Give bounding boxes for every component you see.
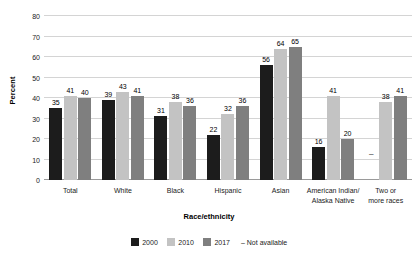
- bar: [379, 102, 392, 180]
- bar-slot: 36: [236, 16, 249, 180]
- legend-item: 2017: [203, 238, 230, 246]
- bar-value-label: 32: [224, 104, 232, 113]
- bar-group: 223236: [202, 16, 255, 180]
- legend-item-label: 2010: [178, 239, 194, 246]
- bar-group: 354140: [44, 16, 97, 180]
- bar: [183, 106, 196, 180]
- bar: [327, 96, 340, 180]
- bar-slot: 41: [64, 16, 77, 180]
- bar-slot: 41: [131, 16, 144, 180]
- bar-value-label: 35: [52, 98, 60, 107]
- bar-slot: –: [365, 16, 378, 180]
- x-axis-tick-label-line: American Indian/: [307, 186, 360, 196]
- x-axis-tick-label: Two ormore races: [359, 186, 412, 205]
- bar-group: 566465: [254, 16, 307, 180]
- x-axis-tick-label: White: [97, 186, 150, 196]
- bar-chart-figure: Percent 01020304050607080 35414039434131…: [0, 0, 418, 262]
- bar-slot: 56: [260, 16, 273, 180]
- bar-value-label: 36: [186, 96, 194, 105]
- bar-value-label: 36: [239, 96, 247, 105]
- bar: [274, 49, 287, 180]
- x-axis-tick-label-line: more races: [359, 196, 412, 206]
- bar: [394, 96, 407, 180]
- bar-slot: 65: [289, 16, 302, 180]
- y-axis-title: Percent: [8, 61, 17, 121]
- legend-item: 2000: [131, 238, 158, 246]
- bar: [154, 116, 167, 180]
- x-axis-tick-label-line: Black: [149, 186, 202, 196]
- bar-slot: 39: [102, 16, 115, 180]
- legend-color-swatch: [167, 238, 175, 246]
- y-axis-tick-label: 10: [32, 156, 40, 163]
- legend-item-label: 2000: [142, 239, 158, 246]
- bar: [116, 92, 129, 180]
- bar-value-label: 41: [396, 86, 404, 95]
- bar-slot: 64: [274, 16, 287, 180]
- bar-slot: 36: [183, 16, 196, 180]
- legend-not-available-note: – Not available: [241, 239, 287, 246]
- bar: [260, 65, 273, 180]
- bar-slot: 20: [341, 16, 354, 180]
- y-axis-tick-label: 30: [32, 115, 40, 122]
- x-axis-tick-label-line: Total: [44, 186, 97, 196]
- bar-value-label: 43: [119, 82, 127, 91]
- x-axis-tick-label: American Indian/Alaska Native: [307, 186, 360, 205]
- bar-slot: 38: [169, 16, 182, 180]
- legend: 200020102017– Not available: [0, 238, 418, 246]
- bar: [221, 114, 234, 180]
- y-axis-tick-label: 70: [32, 33, 40, 40]
- bar: [169, 102, 182, 180]
- bar-slot: 40: [78, 16, 91, 180]
- bar-value-label: 41: [66, 86, 74, 95]
- x-axis-tick-label: Asian: [254, 186, 307, 196]
- bar-slot: 16: [312, 16, 325, 180]
- bar-value-label: 38: [382, 92, 390, 101]
- bar-slot: 38: [379, 16, 392, 180]
- y-axis-tick-label: 50: [32, 74, 40, 81]
- y-axis-tick-label: 60: [32, 54, 40, 61]
- bar-group: 164120: [307, 16, 360, 180]
- bar-slot: 41: [327, 16, 340, 180]
- bar: [64, 96, 77, 180]
- bar-group: –3841: [359, 16, 412, 180]
- x-axis-tick-label: Hispanic: [202, 186, 255, 196]
- bar-value-label: 64: [277, 39, 285, 48]
- bar: [102, 100, 115, 180]
- bar-value-label: 20: [344, 129, 352, 138]
- bar-slot: 41: [394, 16, 407, 180]
- bar: [131, 96, 144, 180]
- plot-area: 01020304050607080 3541403943413138362232…: [44, 16, 412, 180]
- y-axis-tick-label: 80: [32, 13, 40, 20]
- legend-item: 2010: [167, 238, 194, 246]
- bar: [207, 135, 220, 180]
- bar-group: 394341: [97, 16, 150, 180]
- x-axis-title: Race/ethnicity: [0, 212, 418, 221]
- x-axis-tick-label-line: Two or: [359, 186, 412, 196]
- bar-value-label: 40: [81, 88, 89, 97]
- y-axis-tick-label: 40: [32, 95, 40, 102]
- bar-value-label: 16: [315, 137, 323, 146]
- bar-value-label: 41: [133, 86, 141, 95]
- x-axis-tick-label-line: Hispanic: [202, 186, 255, 196]
- bar-value-label: 22: [210, 125, 218, 134]
- bar-slot: 32: [221, 16, 234, 180]
- legend-color-swatch: [131, 238, 139, 246]
- bar-slot: 35: [49, 16, 62, 180]
- bar-value-label: 41: [329, 86, 337, 95]
- x-axis-tick-label-line: Asian: [254, 186, 307, 196]
- bar-slot: 43: [116, 16, 129, 180]
- legend-color-swatch: [203, 238, 211, 246]
- bar-value-label: 56: [262, 55, 270, 64]
- legend-item-label: 2017: [214, 239, 230, 246]
- bar-slot: 22: [207, 16, 220, 180]
- bar: [236, 106, 249, 180]
- y-axis-tick-label: 20: [32, 136, 40, 143]
- x-axis-tick-label: Black: [149, 186, 202, 196]
- bar-group: 313836: [149, 16, 202, 180]
- bar-groups: 354140394341313836223236566465164120–384…: [44, 16, 412, 180]
- x-axis-tick-label-line: Alaska Native: [307, 196, 360, 206]
- x-axis-tick-label: Total: [44, 186, 97, 196]
- bar-value-label: 65: [291, 37, 299, 46]
- bar: [49, 108, 62, 180]
- bar: [341, 139, 354, 180]
